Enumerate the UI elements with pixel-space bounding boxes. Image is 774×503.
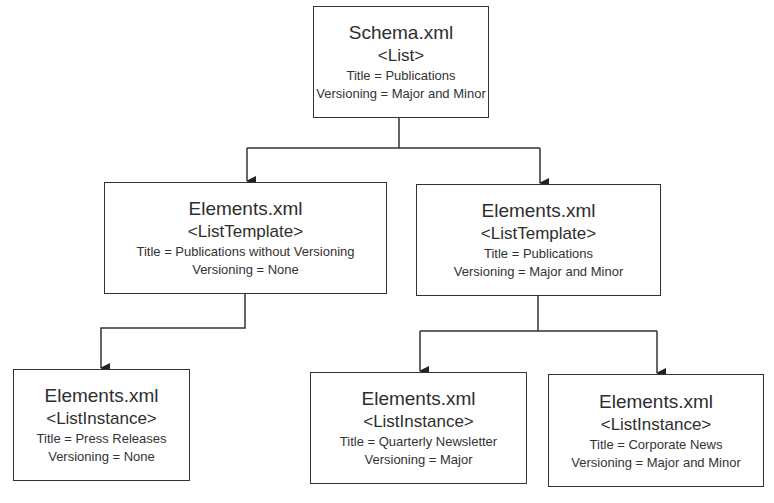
node-title: Title = Publications [347,67,456,85]
node-element-tag: <ListInstance> [601,414,712,436]
node-file-name: Elements.xml [44,384,158,408]
node-file-name: Elements.xml [481,199,595,223]
node-title: Title = Quarterly Newsletter [340,433,497,451]
edge-template-noversion-to-press [101,294,245,368]
edge-template-publications-split [420,296,657,331]
node-element-tag: <ListInstance> [363,411,474,433]
node-title: Title = Corporate News [590,436,723,454]
node-schema-list: Schema.xml <List> Title = Publications V… [313,6,489,118]
node-file-name: Elements.xml [599,390,713,414]
node-title: Title = Press Releases [37,430,167,448]
node-listtemplate-publications: Elements.xml <ListTemplate> Title = Publ… [416,184,661,296]
node-versioning: Versioning = Major and Minor [571,454,740,472]
node-file-name: Schema.xml [349,21,454,45]
node-element-tag: <ListTemplate> [481,223,596,245]
node-file-name: Elements.xml [361,387,475,411]
node-versioning: Versioning = None [48,448,155,466]
node-element-tag: <ListTemplate> [188,221,303,243]
node-title: Title = Publications [484,245,593,263]
node-title: Title = Publications without Versioning [136,243,354,261]
node-versioning: Versioning = Major and Minor [316,85,485,103]
node-element-tag: <List> [378,45,424,67]
node-listinstance-press-releases: Elements.xml <ListInstance> Title = Pres… [13,369,190,481]
node-versioning: Versioning = Major [364,451,472,469]
node-file-name: Elements.xml [188,197,302,221]
node-listtemplate-noversion: Elements.xml <ListTemplate> Title = Publ… [104,182,387,294]
edge-schema-to-templates [247,118,540,148]
node-versioning: Versioning = Major and Minor [454,263,623,281]
node-element-tag: <ListInstance> [46,408,157,430]
node-versioning: Versioning = None [192,261,299,279]
node-listinstance-corporate-news: Elements.xml <ListInstance> Title = Corp… [548,374,764,487]
node-listinstance-quarterly-newsletter: Elements.xml <ListInstance> Title = Quar… [310,372,527,484]
